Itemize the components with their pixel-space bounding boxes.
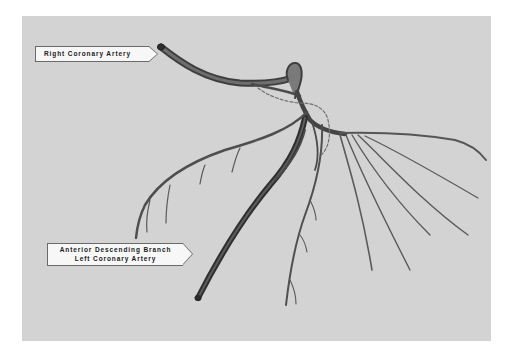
coronary-artery-drawing: [22, 16, 491, 341]
right-coronary-artery-label: Right Coronary Artery: [35, 46, 149, 62]
label-line-2: Left Coronary Artery: [48, 255, 183, 264]
label-line-1: Anterior Descending Branch: [48, 246, 183, 255]
right-coronary-artery-vessel: [161, 47, 292, 83]
anterior-descending-branch-label: Anterior Descending Branch Left Coronary…: [47, 243, 183, 266]
circumflex-branch: [340, 133, 486, 160]
illustration-panel: [22, 16, 491, 341]
